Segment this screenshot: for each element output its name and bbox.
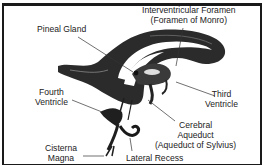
label-cerebral-aqueduct: Cerebral Aqueduct (Aqueduct of Sylvius) (155, 120, 236, 150)
label-fourth-ventricle: Fourth Ventricle (35, 87, 68, 107)
label-pineal-gland: Pineal Gland (37, 24, 86, 34)
leader-lateral-recess (130, 138, 132, 151)
label-interventricular-foramen: Interventricular Foramen (Foramen of Mon… (142, 5, 236, 25)
fourth-ventricle-shape (100, 98, 139, 156)
pineal-gland-dot (134, 71, 139, 76)
leader-cerebral-aqueduct (148, 100, 175, 121)
label-lateral-recess: Lateral Recess (126, 153, 183, 163)
label-cisterna-magna: Cisterna Magna (45, 143, 77, 163)
leader-fourth-ventricle (72, 100, 102, 112)
label-third-ventricle: Third Ventricle (205, 89, 238, 109)
